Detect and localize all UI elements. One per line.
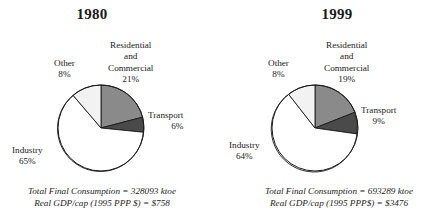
pie-label-line1: Residential	[326, 40, 367, 50]
pie-label-transport: Transport 9%	[361, 105, 396, 128]
pie-label-line1: Transport	[361, 105, 396, 115]
pie-label-percent: 6%	[148, 121, 183, 132]
caption-total-final-consumption: Total Final Consumption = 693289 ktoe	[229, 185, 441, 197]
pie-label-other: Other 8%	[268, 58, 289, 81]
pie-chart-panel-1999: 1999 Residential and Commercial 19% Tran…	[221, 0, 441, 213]
pie-label-percent: 65%	[12, 156, 43, 167]
pie-label-line3: Commercial	[324, 63, 369, 73]
pie-label-residential-commercial: Residential and Commercial 21%	[108, 40, 153, 86]
caption-real-gdp-per-cap: Real GDP/cap (1995 PPP $) = $758	[0, 197, 212, 209]
pie-label-line1: Industry	[229, 140, 260, 150]
pie-label-other: Other 8%	[54, 58, 75, 81]
pie-label-transport: Transport 6%	[148, 110, 183, 133]
pie-label-percent: 64%	[229, 151, 260, 162]
pie-figure-1999	[221, 0, 441, 213]
pie-figure-1980	[0, 0, 220, 213]
pie-label-line2: and	[340, 51, 353, 61]
caption-total-final-consumption: Total Final Consumption = 328093 ktoe	[0, 185, 212, 197]
caption-real-gdp-per-cap: Real GDP/cap (1995 PPP$) = $3476	[229, 197, 441, 209]
pie-label-line3: Commercial	[108, 63, 153, 73]
pie-label-percent: 9%	[361, 116, 396, 127]
pie-label-percent: 8%	[54, 69, 75, 80]
pie-chart-panel-1980: 1980 Residential and Commercial 21% Tran…	[0, 0, 220, 213]
pie-label-line1: Industry	[12, 145, 43, 155]
pie-label-line1: Other	[54, 58, 75, 68]
pie-label-line2: and	[124, 51, 137, 61]
pie-label-percent: 21%	[108, 74, 153, 85]
pie-label-percent: 8%	[268, 69, 289, 80]
pie-label-line1: Residential	[110, 40, 151, 50]
pie-svg-1999	[221, 0, 441, 213]
pie-label-percent: 19%	[324, 74, 369, 85]
pie-label-line1: Transport	[148, 110, 183, 120]
pie-label-line1: Other	[268, 58, 289, 68]
pie-label-industry: Industry 65%	[12, 145, 43, 168]
pie-svg-1980	[0, 0, 220, 213]
pie-label-residential-commercial: Residential and Commercial 19%	[324, 40, 369, 86]
pie-label-industry: Industry 64%	[229, 140, 260, 163]
